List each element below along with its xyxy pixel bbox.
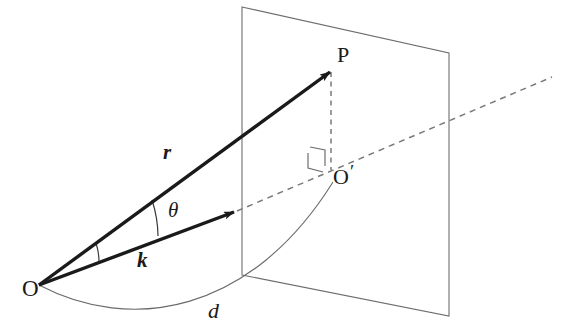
k-extension-dashed-ray (237, 77, 552, 211)
label-distance-d: d (208, 300, 219, 321)
angle-theta-arc-outer (152, 200, 158, 236)
vector-r-arrow (39, 72, 330, 285)
label-foot-o-prime: O (333, 166, 349, 188)
label-point-p: P (337, 44, 349, 66)
angle-theta-arc (96, 243, 99, 262)
right-angle-marker-inner (310, 147, 325, 166)
right-angle-marker (308, 153, 323, 172)
geometry-diagram: O P O ′ r k θ d (0, 0, 565, 321)
distance-d-arc (39, 182, 333, 309)
label-angle-theta: θ (168, 200, 178, 221)
label-vector-r: r (163, 142, 171, 163)
label-origin-o: O (22, 277, 39, 300)
label-foot-o-prime-mark: ′ (350, 162, 354, 181)
diagram-canvas (0, 0, 565, 321)
label-vector-k: k (137, 250, 148, 271)
